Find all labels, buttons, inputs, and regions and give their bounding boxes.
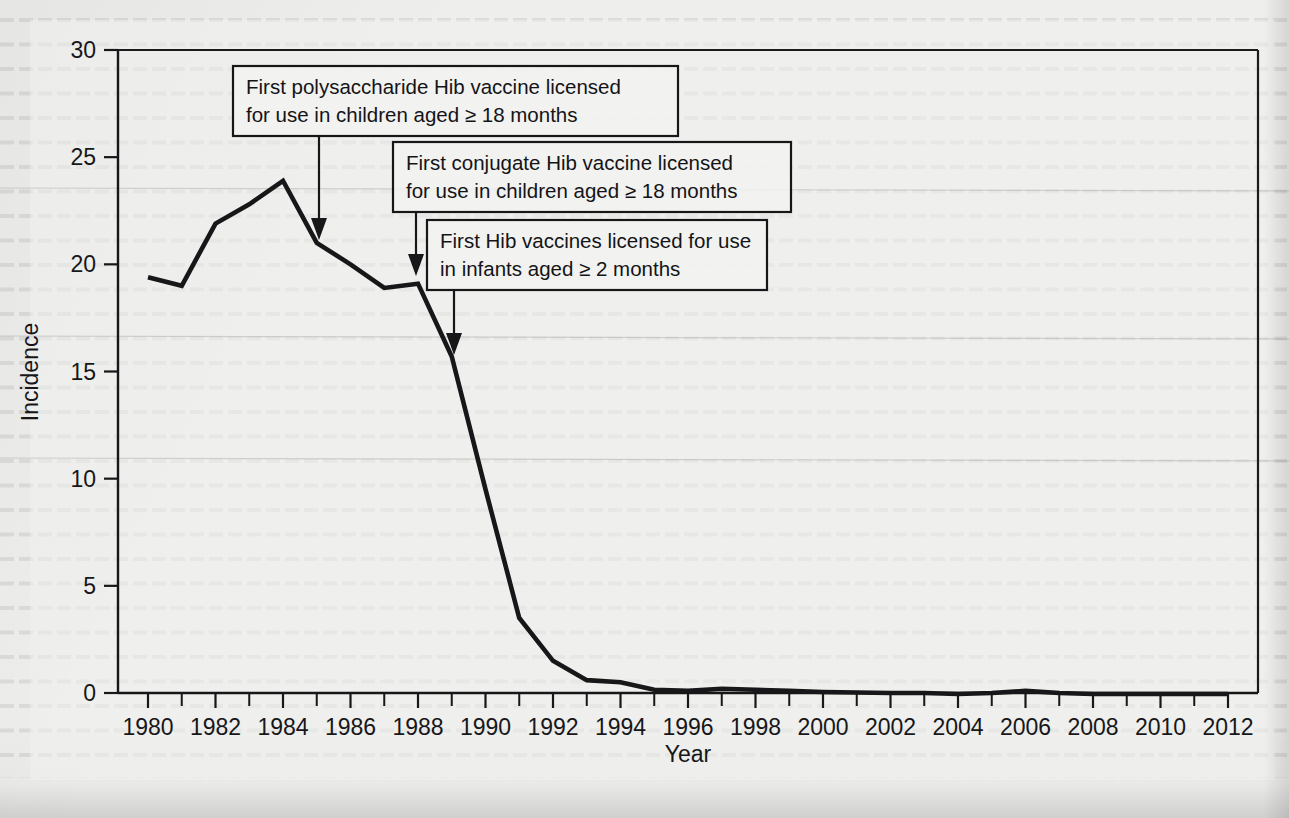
x-tick-label: 2004 (932, 714, 983, 740)
annotation-infants-line2: in infants aged ≥ 2 months (440, 257, 680, 280)
y-tick-label: 30 (70, 37, 96, 63)
x-tick-label: 1998 (730, 714, 781, 740)
x-tick-label: 2000 (797, 714, 848, 740)
annotation-infants-line1: First Hib vaccines licensed for use (440, 229, 751, 252)
y-axis-ticks: 051015202530 (70, 37, 118, 706)
x-tick-label: 1982 (190, 714, 241, 740)
x-tick-label: 1980 (122, 714, 173, 740)
y-tick-label: 25 (70, 144, 96, 170)
x-tick-label: 1994 (595, 714, 646, 740)
x-tick-label: 1992 (527, 714, 578, 740)
incidence-line-chart: 051015202530 198019821984198619881990199… (0, 0, 1289, 818)
y-axis-title: Incidence (17, 323, 43, 421)
x-tick-label: 2008 (1067, 714, 1118, 740)
y-tick-label: 15 (70, 359, 96, 385)
x-tick-label: 2010 (1135, 714, 1186, 740)
x-tick-label: 1990 (460, 714, 511, 740)
x-axis-title: Year (665, 741, 712, 767)
y-tick-label: 20 (70, 251, 96, 277)
annotation-conjugate-arrow-icon (408, 254, 424, 276)
y-tick-label: 0 (83, 680, 96, 706)
x-tick-label: 2002 (865, 714, 916, 740)
annotation-conjugate-line2: for use in children aged ≥ 18 months (406, 179, 737, 202)
x-tick-label: 1988 (392, 714, 443, 740)
x-tick-label: 1986 (325, 714, 376, 740)
x-tick-label: 1984 (257, 714, 308, 740)
y-tick-label: 10 (70, 466, 96, 492)
y-tick-label: 5 (83, 573, 96, 599)
annotation-polysaccharide-line2: for use in children aged ≥ 18 months (246, 103, 577, 126)
annotation-conjugate-line1: First conjugate Hib vaccine licensed (406, 151, 733, 174)
x-tick-label: 2012 (1202, 714, 1253, 740)
x-axis-ticks: 1980198219841986198819901992199419961998… (122, 693, 1253, 740)
x-tick-label: 2006 (1000, 714, 1051, 740)
annotation-infants: First Hib vaccines licensed for use in i… (427, 220, 767, 355)
x-tick-label: 1996 (662, 714, 713, 740)
annotation-polysaccharide-line1: First polysaccharide Hib vaccine license… (246, 75, 621, 98)
